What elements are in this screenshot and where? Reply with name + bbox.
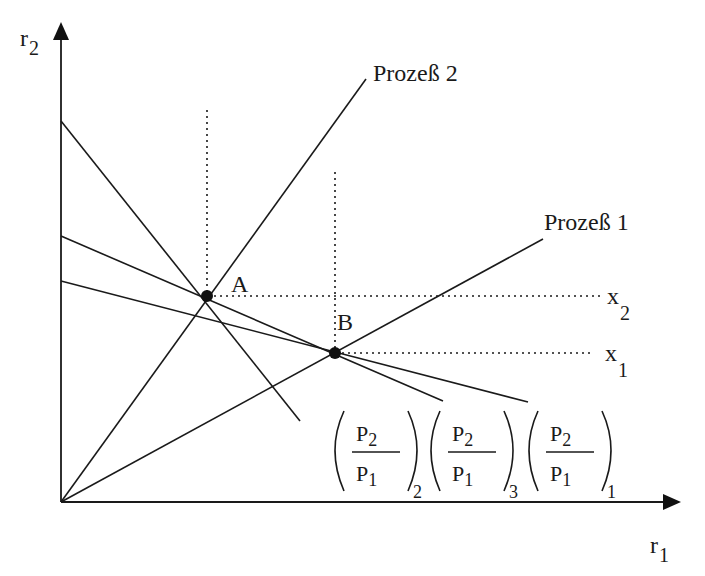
point-a	[201, 290, 213, 302]
y-axis-arrow-icon	[53, 22, 69, 40]
denominator: P1	[550, 461, 571, 490]
isoquant-x2-label: x2	[607, 283, 630, 324]
isocost-line-3	[61, 236, 443, 401]
price-ratio-1: P2 P1 1	[529, 411, 616, 502]
price-ratio-2: P2 P1 2	[335, 411, 422, 502]
ratio-index: 1	[607, 482, 616, 502]
ratio-index: 2	[413, 482, 422, 502]
process-2-label: Prozeß 2	[373, 60, 458, 86]
y-axis-label: r2	[20, 25, 39, 59]
price-ratio-3: P2 P1 3	[431, 411, 518, 502]
right-paren-icon	[408, 411, 417, 491]
isoquant-x1-label: x1	[605, 340, 628, 381]
process-1-ray	[61, 239, 543, 502]
isocost-line-2	[61, 121, 300, 421]
guide-lines	[207, 110, 602, 353]
left-paren-icon	[529, 411, 538, 491]
x-axis-label: r1	[650, 532, 669, 566]
production-diagram: r2 r1 A B Prozeß 2 Prozeß 1 x2 x1 P2 P1	[0, 0, 705, 576]
denominator: P1	[452, 461, 473, 490]
left-paren-icon	[431, 411, 440, 491]
process-1-label: Prozeß 1	[544, 209, 629, 235]
numerator: P2	[452, 421, 473, 450]
point-b-label: B	[337, 309, 353, 335]
right-paren-icon	[602, 411, 611, 491]
numerator: P2	[356, 421, 377, 450]
process-2-ray	[61, 79, 366, 502]
right-paren-icon	[504, 411, 513, 491]
denominator: P1	[356, 461, 377, 490]
numerator: P2	[550, 421, 571, 450]
isocost-line-1	[61, 281, 528, 402]
point-b	[329, 347, 341, 359]
x-axis-arrow-icon	[663, 494, 681, 510]
left-paren-icon	[335, 411, 344, 491]
ratio-index: 3	[509, 482, 518, 502]
point-a-label: A	[231, 271, 249, 297]
